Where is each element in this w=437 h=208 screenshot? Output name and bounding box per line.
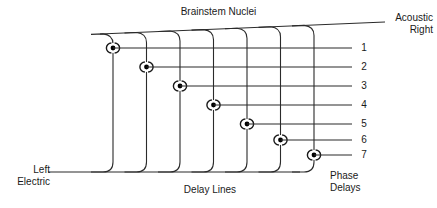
label-acoustic-right: Acoustic Right bbox=[395, 12, 433, 36]
label-delay-lines: Delay Lines bbox=[130, 184, 290, 196]
channel-number-2: 2 bbox=[357, 61, 371, 72]
delay-line-5 bbox=[225, 28, 247, 172]
channel-number-5: 5 bbox=[357, 118, 371, 129]
figure-canvas: Brainstem Nuclei Acoustic Right Left Ele… bbox=[0, 0, 437, 208]
acoustic-right-trunk bbox=[100, 22, 385, 34]
page-title: Brainstem Nuclei bbox=[0, 6, 437, 18]
brainstem-delay-line-diagram bbox=[0, 0, 437, 208]
delay-line-6 bbox=[259, 27, 281, 172]
wire-group bbox=[48, 22, 385, 172]
label-phase-delays: Phase Delays bbox=[330, 170, 361, 194]
channel-number-7: 7 bbox=[357, 149, 371, 160]
channel-number-6: 6 bbox=[357, 134, 371, 145]
channel-number-3: 3 bbox=[357, 80, 371, 91]
delay-line-1 bbox=[91, 34, 113, 172]
delay-line-2 bbox=[125, 32, 147, 172]
label-left-electric: Left Electric bbox=[4, 164, 50, 188]
channel-number-4: 4 bbox=[357, 99, 371, 110]
delay-line-3 bbox=[158, 31, 180, 172]
channel-number-1: 1 bbox=[357, 42, 371, 53]
